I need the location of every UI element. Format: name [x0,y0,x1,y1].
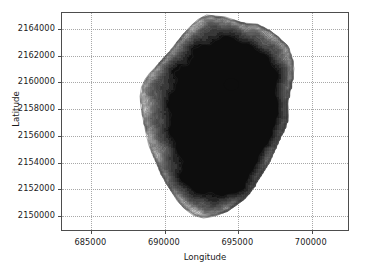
x-tick [312,230,313,234]
contour-map [62,13,348,230]
x-tick [165,230,166,234]
y-tick-label: 2154000 [18,157,55,167]
y-tick-label: 2164000 [18,23,55,33]
y-axis-label: Latitude [11,79,21,139]
y-tick-label: 2162000 [18,50,55,60]
summit-crater-marker [224,78,239,90]
x-tick [238,230,239,234]
x-tick [91,230,92,234]
x-tick-label: 685000 [74,237,106,247]
plot-axes [61,12,349,231]
figure-canvas: 2150000215200021540002156000215800021600… [0,0,367,279]
y-tick-label: 2152000 [18,183,55,193]
y-tick-label: 2156000 [18,130,55,140]
x-tick-label: 690000 [148,237,180,247]
x-tick-label: 695000 [221,237,253,247]
y-tick-label: 2150000 [18,210,55,220]
x-tick-label: 700000 [295,237,327,247]
y-tick-label: 2158000 [18,103,55,113]
y-tick-label: 2160000 [18,76,55,86]
x-axis-label: Longitude [61,252,349,262]
contour-plot-area [62,13,348,230]
